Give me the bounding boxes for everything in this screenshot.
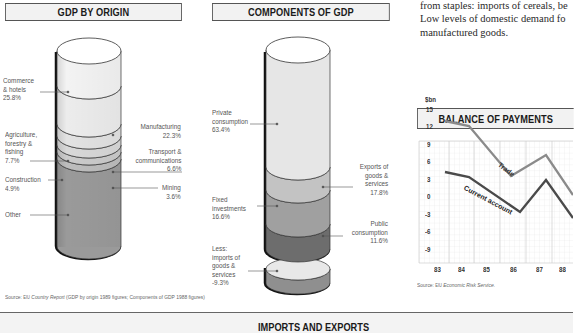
y-tick: 0 [427,192,430,201]
y-tick: -6 [425,227,430,236]
x-tick: 84 [458,265,465,274]
imports-exports-title: IMPORTS AND EXPORTS [258,321,369,333]
source-name: Economic Risk Service. [443,282,495,288]
y-tick: -3 [425,210,430,219]
source-note: (GDP by origin 1989 figures; Components … [66,294,205,300]
x-tick: 86 [510,265,517,274]
x-tick: 88 [559,265,566,274]
y-tick: 6 [427,157,430,166]
source-prefix: Source: [417,282,434,288]
balance-chart [0,0,573,290]
y-tick: 3 [427,175,430,184]
gdp-source-note: Source: EIU Country Report (GDP by origi… [5,294,205,300]
x-tick: 85 [483,265,490,274]
x-tick: 87 [536,265,543,274]
source-org: EIU [435,283,442,288]
y-tick: 9 [427,140,430,149]
y-tick: 12 [426,122,433,131]
y-tick: -9 [425,245,430,254]
balance-source-note: Source: EIU Economic Risk Service. [417,282,495,288]
x-tick: 83 [434,265,441,274]
y-unit-label: $bn [425,95,436,104]
y-tick: 15 [426,105,433,114]
source-org: EIU [23,295,30,300]
source-prefix: Source: [5,294,22,300]
source-report: Country Report [31,294,64,300]
